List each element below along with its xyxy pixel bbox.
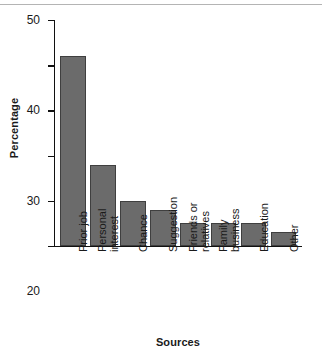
category-label-line: business bbox=[229, 174, 241, 252]
category-label-line: Chance bbox=[138, 174, 150, 252]
y-axis-line bbox=[54, 20, 55, 246]
category-label-line: Other bbox=[289, 174, 301, 252]
top-divider-rule bbox=[0, 4, 322, 5]
x-axis-category-label: Prior job bbox=[78, 174, 90, 252]
x-axis-title: Sources bbox=[54, 336, 302, 348]
x-axis-category-label: Personalinterest bbox=[97, 174, 120, 252]
category-label-line: Education bbox=[259, 174, 271, 252]
category-label-line: interest bbox=[109, 174, 121, 252]
y-axis-tick-mark: 0 bbox=[48, 246, 54, 247]
category-label-line: Friends or bbox=[188, 174, 200, 252]
category-label-line: Suggestion bbox=[168, 174, 180, 252]
y-axis-tick-label: 50 bbox=[27, 13, 40, 27]
y-axis-tick-mark: 30 bbox=[48, 110, 54, 111]
x-axis-category-label: Suggestion bbox=[168, 174, 180, 252]
y-axis-tick-label: 20 bbox=[27, 284, 40, 298]
y-axis-tick-mark: 10 bbox=[48, 201, 54, 202]
x-axis-category-label: Chance bbox=[138, 174, 150, 252]
x-axis-category-label: Friends orrelatives bbox=[188, 174, 211, 252]
x-axis-category-label: Education bbox=[259, 174, 271, 252]
bar-chart-figure: Percentage 01020304050 Prior jobPersonal… bbox=[0, 0, 322, 358]
category-label-line: Prior job bbox=[78, 174, 90, 252]
category-label-line: relatives bbox=[199, 174, 211, 252]
x-axis-category-label: Other bbox=[289, 174, 301, 252]
y-axis-title: Percentage bbox=[8, 83, 20, 173]
y-axis-tick-label: 40 bbox=[27, 103, 40, 117]
category-label-line: Family bbox=[218, 174, 230, 252]
y-axis-tick-label: 30 bbox=[27, 194, 40, 208]
y-axis-tick-mark: 40 bbox=[48, 65, 54, 66]
y-axis-tick-mark: 50 bbox=[48, 20, 54, 21]
y-axis-tick-mark: 20 bbox=[48, 156, 54, 157]
x-axis-category-label: Familybusiness bbox=[218, 174, 241, 252]
